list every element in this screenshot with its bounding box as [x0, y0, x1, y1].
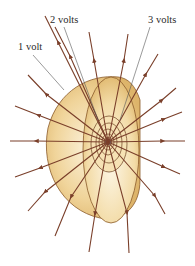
diagram-svg — [0, 0, 195, 266]
label-1-volt: 1 volt — [18, 42, 42, 53]
label-2-volts: 2 volts — [50, 15, 78, 26]
equipotential-diagram: 1 volt 2 volts 3 volts — [0, 0, 195, 266]
label-3-volts: 3 volts — [148, 15, 176, 26]
